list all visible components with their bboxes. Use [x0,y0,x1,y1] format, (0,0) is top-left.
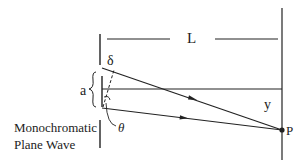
source-label-line1: Monochromatic [14,121,97,134]
label-P: P [286,124,293,137]
label-delta: δ [107,54,114,68]
point-p-dot [279,127,284,132]
label-y: y [264,98,271,112]
label-L: L [187,31,196,46]
label-theta: θ [118,121,124,134]
arrow-icon [188,95,197,100]
theta-leader [106,103,116,126]
diffraction-diagram: L δ a θ y P Monochromatic Plane Wave [0,0,303,165]
brace-icon [89,72,96,107]
label-a: a [80,84,86,98]
source-label-line2: Plane Wave [14,138,75,151]
ray-bottom [102,108,282,130]
